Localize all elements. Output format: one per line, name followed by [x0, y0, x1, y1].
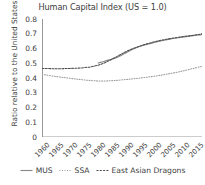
chart-title: Human Capital Index (US = 1.0) [0, 2, 205, 12]
legend-label: East Asian Dragons [112, 167, 186, 175]
chart-legend: MUSSSAEast Asian Dragons [0, 167, 205, 175]
legend-line-sample [20, 167, 33, 174]
human-capital-index-chart: Human Capital Index (US = 1.0) Ratio rel… [0, 0, 205, 185]
legend-label: MUS [36, 167, 53, 175]
y-tick-label: 0.5 [13, 59, 37, 68]
y-tick-label: 0.7 [13, 29, 37, 38]
legend-label: SSA [75, 167, 90, 175]
legend-item-ssa[interactable]: SSA [59, 167, 90, 175]
plot-svg [42, 19, 202, 137]
y-tick-label: 0 [13, 133, 37, 142]
y-tick-label: 0.4 [13, 74, 37, 83]
y-tick-label: 0.2 [13, 103, 37, 112]
y-tick-label: 0.1 [13, 118, 37, 127]
legend-item-mus[interactable]: MUS [20, 167, 53, 175]
y-tick-label: 0.6 [13, 44, 37, 53]
series-line-east-asian-dragons [42, 34, 202, 69]
legend-line-sample [96, 167, 109, 174]
y-tick-label: 0.8 [13, 15, 37, 24]
plot-area [42, 19, 202, 137]
legend-line-sample [59, 167, 72, 174]
y-tick-label: 0.3 [13, 88, 37, 97]
legend-item-east-asian-dragons[interactable]: East Asian Dragons [96, 167, 186, 175]
